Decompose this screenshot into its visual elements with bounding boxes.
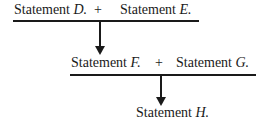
- statement-d: Statement D.: [14, 3, 87, 17]
- statement-h-letter: H.: [196, 105, 210, 120]
- statement-f: Statement F.: [71, 56, 141, 70]
- statement-g: Statement G.: [176, 56, 249, 70]
- plus-1: +: [94, 3, 102, 17]
- statement-d-prefix: Statement: [14, 2, 74, 17]
- statement-h: Statement H.: [136, 106, 209, 120]
- arrow-1-head: [95, 46, 105, 55]
- statement-f-letter: F.: [131, 55, 141, 70]
- arrow-1-shaft: [99, 20, 101, 49]
- statement-e-letter: E.: [180, 2, 192, 17]
- plus-2: +: [155, 56, 163, 70]
- statement-g-prefix: Statement: [176, 55, 236, 70]
- statement-d-letter: D.: [74, 2, 88, 17]
- rule-2: [70, 74, 256, 76]
- rule-1: [13, 20, 199, 22]
- statement-h-prefix: Statement: [136, 105, 196, 120]
- statement-e-prefix: Statement: [120, 2, 180, 17]
- statement-f-prefix: Statement: [71, 55, 131, 70]
- statement-e: Statement E.: [120, 3, 192, 17]
- statement-g-letter: G.: [236, 55, 250, 70]
